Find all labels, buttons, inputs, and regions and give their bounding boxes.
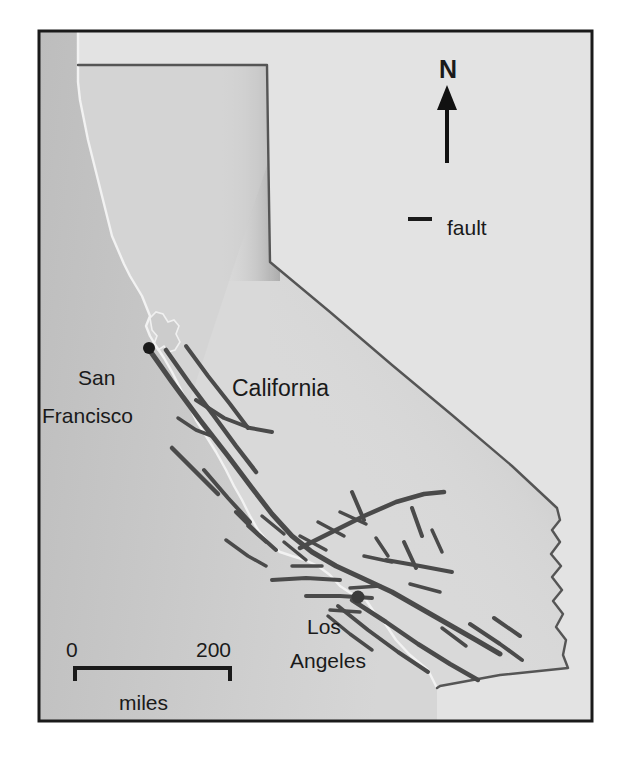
scale-min-label: 0 xyxy=(66,638,78,661)
fault-transverse-5 xyxy=(350,586,380,588)
scale-unit-label: miles xyxy=(119,691,168,714)
city-label-los-angeles-line1: Los xyxy=(307,615,341,638)
city-label-san-francisco-line2: Francisco xyxy=(42,404,133,427)
state-label-california: California xyxy=(232,375,329,401)
california-fault-map-figure: California San Francisco Los Angeles N f… xyxy=(0,0,624,758)
map-canvas: California San Francisco Los Angeles N f… xyxy=(0,0,624,758)
los-angeles-dot xyxy=(352,591,365,604)
city-label-los-angeles-line2: Angeles xyxy=(290,649,366,672)
fault-transverse-1 xyxy=(272,578,340,580)
north-label: N xyxy=(439,55,457,83)
city-label-san-francisco-line1: San xyxy=(78,366,115,389)
legend-fault-label: fault xyxy=(447,216,487,239)
scale-max-label: 200 xyxy=(196,638,231,661)
san-francisco-dot xyxy=(143,342,155,354)
